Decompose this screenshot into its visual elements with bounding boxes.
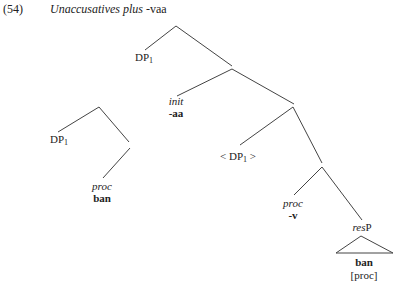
trace-close: >: [247, 150, 256, 162]
left-branch-right: [99, 107, 129, 142]
resp-content: ban: [355, 256, 373, 268]
tree-branches: [0, 0, 409, 294]
lower-spec-dp: < DP1 >: [220, 150, 256, 162]
resp-plain: P: [365, 221, 371, 233]
resp-label: resP: [352, 221, 371, 233]
init-category: init: [169, 95, 184, 107]
dp-label: DP: [135, 51, 149, 63]
left-branch-spec: [58, 107, 99, 132]
branch-root-right: [176, 26, 232, 66]
branch-root-left: [145, 26, 176, 50]
title-suffix: -vaa: [146, 2, 167, 16]
example-number: (54): [3, 3, 23, 15]
resp-italic: res: [352, 221, 365, 233]
dp-label: < DP: [220, 150, 243, 162]
branch-init-left: [177, 69, 232, 96]
top-spec-dp: DP1: [135, 51, 153, 63]
proc-form: -v: [288, 209, 297, 221]
left-proc-category: proc: [92, 180, 112, 192]
branch-proc-right: [322, 167, 362, 220]
branch-initp-left: [240, 107, 293, 145]
init-form: -aa: [169, 107, 184, 119]
dp-index: 1: [149, 56, 153, 65]
resp-feature: [proc]: [351, 269, 378, 281]
left-proc-form: ban: [93, 192, 111, 204]
left-branch-head: [103, 148, 130, 178]
dp-index: 1: [64, 138, 68, 147]
branch-init-right: [232, 69, 294, 104]
dp-label: DP: [50, 133, 64, 145]
branch-proc-left: [294, 167, 322, 195]
title-italic: Unaccusatives plus: [50, 2, 143, 16]
example-title: Unaccusatives plus -vaa: [50, 3, 167, 15]
resp-triangle: [336, 236, 393, 253]
branch-initp-right: [293, 107, 322, 163]
left-spec-dp: DP1: [50, 133, 68, 145]
proc-category: proc: [283, 197, 303, 209]
